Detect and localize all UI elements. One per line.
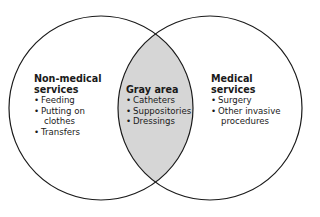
list-item: procedures: [211, 116, 281, 127]
list-item: Suppositories: [126, 106, 191, 117]
medical-title-2: services: [211, 84, 281, 95]
list-item: Feeding: [34, 95, 102, 106]
medical-title-1: Medical: [211, 73, 281, 84]
list-item-continuation: clothes: [44, 116, 75, 126]
list-item: Transfers: [34, 127, 102, 138]
non-medical-block: Non-medical services Feeding Putting on …: [34, 73, 102, 137]
non-medical-title-2: services: [34, 84, 102, 95]
list-item: clothes: [34, 116, 102, 127]
list-item: Putting on: [34, 106, 102, 117]
gray-area-block: Gray area Catheters Suppositories Dressi…: [126, 84, 191, 127]
list-item: Other invasive: [211, 106, 281, 117]
medical-block: Medical services Surgery Other invasive …: [211, 73, 281, 127]
list-item-continuation: procedures: [221, 116, 269, 126]
gray-area-title: Gray area: [126, 84, 191, 95]
list-item: Surgery: [211, 95, 281, 106]
list-item: Dressings: [126, 116, 191, 127]
non-medical-title-1: Non-medical: [34, 73, 102, 84]
list-item: Catheters: [126, 95, 191, 106]
